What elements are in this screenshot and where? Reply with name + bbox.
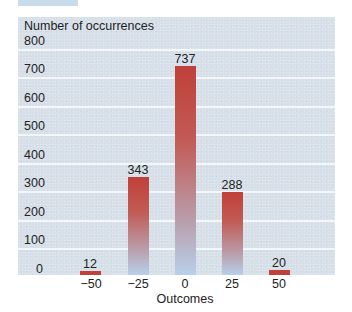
y-tick-100: 100 bbox=[24, 233, 45, 247]
y-tick-500: 500 bbox=[24, 119, 45, 133]
y-tick-300: 300 bbox=[24, 176, 45, 190]
bar-neg25 bbox=[128, 177, 149, 275]
header-accent-bar bbox=[18, 0, 78, 6]
y-axis-title: Number of occurrences bbox=[24, 19, 154, 33]
value-label-0: 737 bbox=[165, 52, 205, 66]
y-tick-800: 800 bbox=[24, 34, 45, 48]
value-label-neg50: 12 bbox=[70, 257, 110, 271]
y-tick-200: 200 bbox=[24, 205, 45, 219]
bar-neg50 bbox=[80, 271, 101, 275]
bar-25 bbox=[222, 192, 243, 275]
bar-0 bbox=[175, 66, 196, 275]
x-tick-neg50: −50 bbox=[71, 277, 111, 291]
value-label-neg25: 343 bbox=[118, 163, 158, 177]
gridline-700 bbox=[18, 49, 335, 51]
x-axis-title: Outcomes bbox=[145, 292, 225, 306]
x-tick-0: 0 bbox=[165, 277, 205, 291]
y-tick-400: 400 bbox=[24, 148, 45, 162]
x-tick-50: 50 bbox=[259, 277, 299, 291]
value-label-25: 288 bbox=[212, 178, 252, 192]
bar-50 bbox=[269, 270, 290, 275]
value-label-50: 20 bbox=[259, 256, 299, 270]
plot-area: Number of occurrences 800 700 600 500 40… bbox=[18, 17, 335, 275]
y-tick-700: 700 bbox=[24, 62, 45, 76]
x-tick-25: 25 bbox=[212, 277, 252, 291]
y-tick-0: 0 bbox=[36, 262, 43, 276]
x-tick-neg25: −25 bbox=[118, 277, 158, 291]
y-tick-600: 600 bbox=[24, 91, 45, 105]
